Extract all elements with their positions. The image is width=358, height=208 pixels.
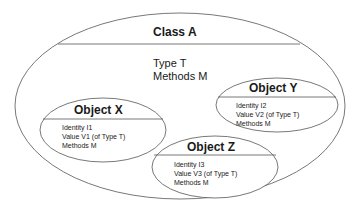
class-a-methods: Methods M (153, 71, 207, 82)
object-y-identity: Identity I2 (236, 101, 266, 110)
object-z-value: Value V3 (of Type T) (174, 169, 237, 178)
object-x-identity: Identity I1 (62, 123, 92, 132)
object-y-title: Object Y (249, 82, 297, 94)
object-z-identity: Identity I3 (174, 160, 204, 169)
object-y-value: Value V2 (of Type T) (236, 110, 299, 119)
object-x-title: Object X (74, 104, 123, 116)
object-x-methods: Methods M (62, 141, 97, 150)
object-x-value: Value V1 (of Type T) (62, 132, 125, 141)
class-a-title: Class A (153, 26, 197, 38)
class-a-type: Type T (153, 58, 186, 69)
object-z-title: Object Z (187, 141, 235, 153)
object-z-methods: Methods M (174, 178, 209, 187)
object-y-methods: Methods M (236, 119, 271, 128)
